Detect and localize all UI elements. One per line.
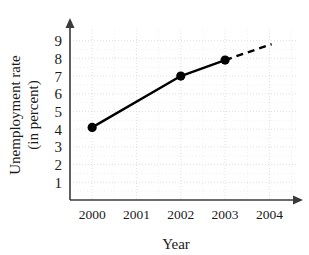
y-axis-tick-labels: 123456789 xyxy=(55,33,63,191)
y-axis-title-line-1: Unemployment rate xyxy=(7,55,23,175)
y-axis-tick-1: 1 xyxy=(55,175,63,191)
y-axis-tick-7: 7 xyxy=(55,69,63,85)
y-axis-tick-9: 9 xyxy=(55,33,63,49)
data-point-2000 xyxy=(88,123,97,132)
y-axis-tick-5: 5 xyxy=(55,104,63,120)
unemployment-rate-line-chart: 123456789 20002001200220032004 Unemploym… xyxy=(0,0,309,255)
x-axis-tick-2003: 2003 xyxy=(212,207,239,222)
x-axis-tick-2000: 2000 xyxy=(79,207,106,222)
x-axis-tick-2002: 2002 xyxy=(167,207,194,222)
data-point-2003 xyxy=(221,56,230,65)
y-axis-tick-6: 6 xyxy=(55,86,63,102)
y-axis-tick-4: 4 xyxy=(55,122,63,138)
x-axis-title: Year xyxy=(162,236,190,252)
y-axis-tick-2: 2 xyxy=(55,157,63,173)
y-axis-title-line-2: (in percent) xyxy=(25,80,42,150)
x-axis-tick-2001: 2001 xyxy=(123,207,150,222)
x-axis-tick-2004: 2004 xyxy=(256,207,283,222)
y-axis-tick-3: 3 xyxy=(55,139,63,155)
chart-canvas: 123456789 20002001200220032004 Unemploym… xyxy=(0,0,309,255)
y-axis-tick-8: 8 xyxy=(55,51,63,67)
data-point-2002 xyxy=(176,71,185,80)
